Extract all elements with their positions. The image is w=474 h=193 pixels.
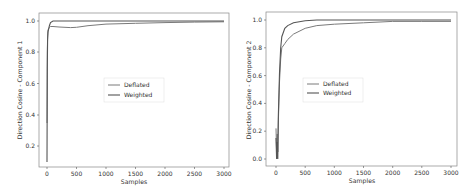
legend-label-weighted: Weighted [323, 89, 352, 97]
y-tick-label: 0.4 [252, 99, 262, 106]
y-axis-label: Direction Cosine - Component 1 [16, 41, 24, 140]
legend-label-weighted: Weighted [124, 91, 153, 99]
x-tick-label: 3000 [443, 169, 458, 176]
x-tick-label: 500 [299, 169, 311, 176]
legend: Deflated Weighted [104, 78, 164, 102]
x-tick-label: 1000 [98, 170, 113, 177]
x-tick-label: 2500 [187, 170, 202, 177]
x-tick-label: 2000 [385, 169, 400, 176]
x-tick-label: 0 [45, 170, 49, 177]
x-tick-label: 500 [71, 170, 83, 177]
y-tick-label: 1.0 [252, 16, 262, 23]
y-tick-label: 0.8 [252, 44, 262, 51]
chart-component-2: 0.0 0.2 0.4 0.6 0.8 1.0 0 500 1000 1500 … [237, 0, 474, 193]
chart-svg-2: 0.0 0.2 0.4 0.6 0.8 1.0 0 500 1000 1500 … [237, 0, 474, 193]
x-tick-label: 3000 [216, 170, 231, 177]
x-axis-label: Samples [121, 178, 147, 186]
x-tick-label: 0 [274, 169, 278, 176]
x-tick-label: 2000 [157, 170, 172, 177]
x-axis: 0 500 1000 1500 2000 2500 3000 [274, 166, 459, 176]
chart-svg-1: 0.2 0.4 0.6 0.8 1.0 0 500 1000 1500 2000… [0, 0, 237, 193]
y-axis: 0.2 0.4 0.6 0.8 1.0 [25, 17, 39, 149]
y-axis: 0.0 0.2 0.4 0.6 0.8 1.0 [252, 16, 266, 162]
y-tick-label: 0.0 [252, 155, 262, 162]
y-tick-label: 0.2 [25, 142, 35, 149]
x-tick-label: 1500 [128, 170, 143, 177]
x-axis-label: Samples [349, 177, 375, 185]
y-axis-label: Direction Cosine - Component 2 [245, 41, 253, 140]
x-axis: 0 500 1000 1500 2000 2500 3000 [45, 167, 232, 177]
y-tick-label: 0.2 [252, 127, 262, 134]
y-tick-label: 0.4 [25, 111, 35, 118]
y-tick-label: 1.0 [25, 17, 35, 24]
legend: Deflated Weighted [303, 78, 363, 102]
legend-label-deflated: Deflated [124, 81, 150, 88]
x-tick-label: 1500 [356, 169, 371, 176]
x-tick-label: 1000 [327, 169, 342, 176]
chart-component-1: 0.2 0.4 0.6 0.8 1.0 0 500 1000 1500 2000… [0, 0, 237, 193]
series-deflated-line [47, 22, 224, 123]
series-weighted-line [276, 20, 451, 159]
legend-label-deflated: Deflated [323, 80, 349, 87]
series-deflated-line [276, 21, 451, 152]
x-tick-label: 2500 [414, 169, 429, 176]
y-tick-label: 0.8 [25, 48, 35, 55]
y-tick-label: 0.6 [252, 72, 262, 79]
y-tick-label: 0.6 [25, 80, 35, 87]
